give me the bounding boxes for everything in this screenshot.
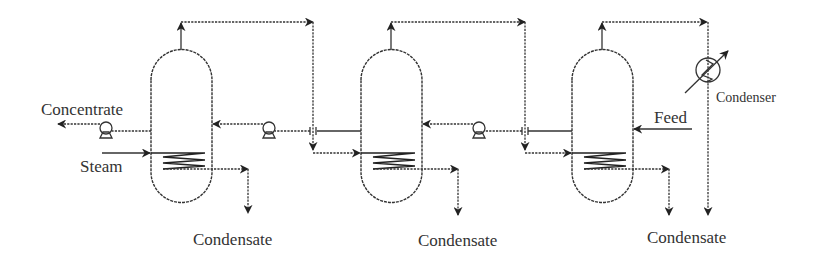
label-condenser: Condenser [716,90,776,105]
label-condensate-3: Condensate [647,228,726,247]
label-feed: Feed [654,108,688,127]
label-steam: Steam [80,157,123,176]
vessel-1 [151,49,212,202]
label-condensate-1: Condensate [193,230,272,249]
evaporator-diagram: Concentrate Steam Feed Condenser Condens… [0,0,830,260]
effect-2 [213,22,525,215]
vessel-3 [572,49,633,202]
coolant-arrow-icon [685,51,728,93]
condenser [685,22,728,215]
pump-1-icon [100,122,112,138]
vessel-2 [361,50,422,203]
pump-3-icon [473,122,485,138]
label-condensate-2: Condensate [418,231,497,250]
label-concentrate: Concentrate [41,100,123,119]
pump-2-icon [263,122,275,138]
